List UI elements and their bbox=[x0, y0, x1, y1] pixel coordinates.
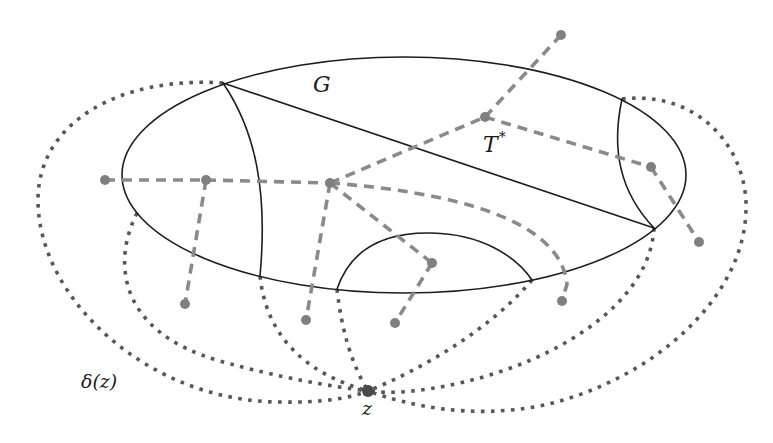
graph-label-G: G bbox=[313, 72, 331, 97]
cut-label-delta-z: δ(z) bbox=[81, 370, 117, 392]
diagram-canvas: G T* δ(z) z bbox=[0, 0, 773, 443]
label-T-base: T bbox=[483, 132, 500, 157]
label-T-superscript: * bbox=[499, 129, 506, 145]
dual-node-n8 bbox=[427, 258, 437, 268]
dual-node-n9 bbox=[390, 318, 400, 328]
dual-node-n6 bbox=[646, 162, 656, 172]
dual-node-n12 bbox=[180, 299, 190, 309]
dual-node-n5 bbox=[556, 30, 566, 40]
dual-node-n7 bbox=[694, 237, 704, 247]
dual-node-n11 bbox=[301, 315, 311, 325]
dual-node-n1 bbox=[100, 175, 110, 185]
dual-node-n2 bbox=[201, 175, 211, 185]
dual-node-n3 bbox=[325, 178, 335, 188]
dual-node-n4 bbox=[480, 112, 490, 122]
vertex-label-z: z bbox=[361, 397, 373, 419]
dual-node-n10 bbox=[557, 296, 567, 306]
vertex-z bbox=[362, 385, 374, 397]
